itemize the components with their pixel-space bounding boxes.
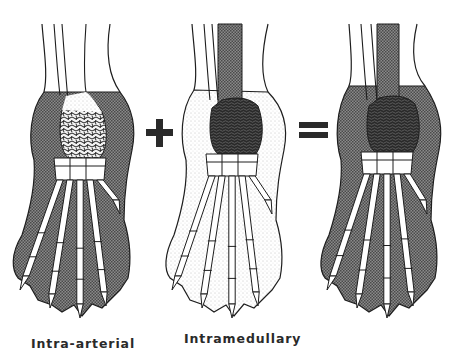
radius-ulna-lines	[54, 24, 86, 100]
bone-metaphysis-dark-mottled	[210, 98, 262, 154]
marrow-canal-shaded	[218, 24, 242, 104]
bone-metaphysis-dark-mottled	[367, 96, 419, 152]
equals-operator-icon	[299, 122, 328, 138]
digit-bone	[383, 174, 391, 304]
digit-bone	[76, 180, 84, 304]
carpal-bones	[206, 154, 258, 176]
leg-outline	[42, 24, 120, 92]
carpal-bones	[54, 158, 106, 180]
carpal-bones	[361, 152, 413, 174]
plus-operator-icon	[146, 119, 173, 147]
label-intra-arterial: Intra-arterial	[31, 336, 135, 351]
label-intramedullary: Intramedullary	[184, 331, 301, 346]
digit-bone	[228, 176, 236, 304]
marrow-canal-shaded	[377, 24, 399, 102]
ulna-lines	[204, 24, 218, 100]
diagram-canvas	[0, 0, 458, 361]
